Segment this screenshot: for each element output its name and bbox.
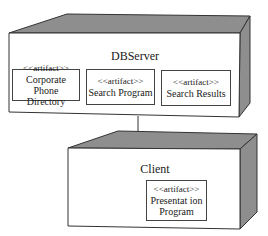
dbserver-top-face xyxy=(9,14,250,33)
artifact-stereotype: <<artifact>> xyxy=(154,184,200,195)
artifact-name-line2: Directory xyxy=(27,96,65,107)
artifact-name-line2: Program xyxy=(159,206,193,217)
client-side-face xyxy=(240,134,257,229)
artifact-presentation-program[interactable]: <<artifact>> Presentat ion Program xyxy=(146,180,207,221)
dbserver-node-label: DBServer xyxy=(100,50,170,62)
artifact-stereotype: <<artifact>> xyxy=(23,63,69,74)
client-node-label: Client xyxy=(138,163,172,175)
artifact-name-line1: Presentat ion xyxy=(151,195,203,206)
artifact-search-results[interactable]: <<artifact>> Search Results xyxy=(161,70,231,106)
artifact-name-line1: Search Program xyxy=(88,87,152,98)
client-top-face xyxy=(68,131,257,149)
dbserver-side-face xyxy=(239,16,250,117)
artifact-stereotype: <<artifact>> xyxy=(173,77,219,88)
artifact-name-line1: Corporate Phone xyxy=(13,74,79,96)
artifact-stereotype: <<artifact>> xyxy=(98,76,144,87)
artifact-name-line1: Search Results xyxy=(166,88,225,99)
diagram-canvas xyxy=(0,0,268,236)
artifact-corporate-phone-directory[interactable]: <<artifact>> Corporate Phone Directory xyxy=(12,69,80,101)
artifact-search-program[interactable]: <<artifact>> Search Program xyxy=(86,69,155,105)
